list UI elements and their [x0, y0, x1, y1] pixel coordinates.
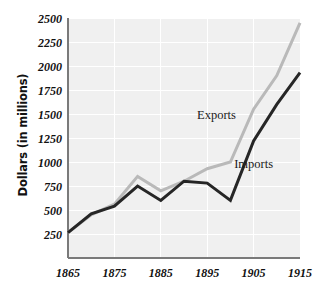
- y-tick-label: 1250: [38, 132, 62, 146]
- x-tick-label: 1865: [56, 266, 80, 280]
- plot-area-svg: 2505007501000125015001750200022502500 18…: [0, 0, 321, 295]
- x-tick-label: 1875: [102, 266, 126, 280]
- series-label-imports: Imports: [234, 157, 273, 171]
- y-tick-label: 750: [44, 180, 62, 194]
- x-axis-tick-labels: 186518751885189519051915: [56, 266, 312, 280]
- y-tick-label: 500: [44, 204, 62, 218]
- y-tick-label: 1750: [38, 84, 62, 98]
- y-tick-label: 1000: [38, 156, 62, 170]
- x-tick-label: 1885: [149, 266, 173, 280]
- y-tick-label: 2250: [37, 36, 62, 50]
- line-chart-figure: Dollars (in millions) 250500750100012501…: [0, 0, 321, 295]
- y-axis-tick-labels: 2505007501000125015001750200022502500: [37, 12, 62, 242]
- y-tick-label: 250: [43, 228, 62, 242]
- y-tick-label: 2500: [37, 12, 62, 26]
- series-label-exports: Exports: [197, 108, 236, 122]
- y-tick-label: 2000: [37, 60, 62, 74]
- x-tick-label: 1905: [242, 266, 266, 280]
- y-tick-label: 1500: [38, 108, 62, 122]
- x-tick-label: 1895: [195, 266, 219, 280]
- x-tick-label: 1915: [288, 266, 312, 280]
